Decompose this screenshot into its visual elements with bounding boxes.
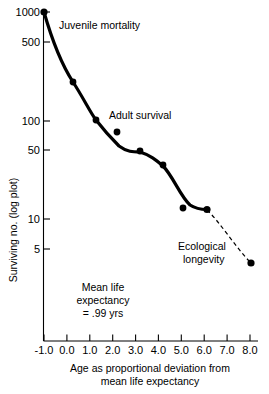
y-axis-tick-labels: 1000 500 100 50 10 5	[16, 6, 40, 255]
x-tick-label: 4.0	[151, 344, 166, 356]
x-axis-title-line1: Age as proportional deviation from	[70, 362, 230, 374]
survivorship-curve-chart: 1000 500 100 50 10 5 -1.0 0.0 1.0 2.0	[0, 0, 269, 394]
note-mean-life-line1: Mean life	[82, 281, 125, 293]
data-point	[160, 162, 167, 169]
x-tick-label: 1.0	[82, 344, 97, 356]
data-point	[40, 8, 47, 15]
y-tick-label: 500	[22, 36, 40, 48]
y-axis-ticks	[44, 12, 51, 249]
annotation-juvenile-mortality: Juvenile mortality	[59, 19, 141, 31]
x-tick-label: 0.0	[59, 344, 74, 356]
data-point	[203, 206, 210, 213]
note-mean-life-line2: expectancy	[76, 294, 130, 306]
x-tick-label: -1.0	[35, 344, 54, 356]
x-tick-label: 2.0	[105, 344, 120, 356]
y-tick-label: 5	[34, 243, 40, 255]
data-point	[70, 79, 77, 86]
annotation-ecological-line1: Ecological	[178, 240, 226, 252]
x-tick-label: 3.0	[128, 344, 143, 356]
data-point	[137, 148, 144, 155]
annotation-ecological-line2: longevity	[183, 253, 225, 265]
x-tick-label: 6.0	[197, 344, 212, 356]
x-tick-label: 7.0	[219, 344, 234, 356]
x-tick-label: 5.0	[174, 344, 189, 356]
y-tick-label: 100	[22, 115, 40, 127]
annotation-adult-survival: Adult survival	[109, 109, 171, 121]
y-tick-label: 10	[28, 213, 40, 225]
x-axis-ticks	[44, 335, 250, 342]
note-mean-life-line3: = .99 yrs	[83, 307, 124, 319]
data-point	[247, 259, 254, 266]
x-tick-label: 8.0	[242, 344, 257, 356]
data-point	[93, 117, 100, 124]
y-tick-label: 50	[28, 144, 40, 156]
x-axis-tick-labels: -1.0 0.0 1.0 2.0 3.0 4.0 5.0 6.0 7.0 8.0	[35, 344, 258, 356]
data-point	[114, 129, 121, 136]
data-point	[180, 205, 187, 212]
x-axis-title-line2: mean life expectancy	[101, 375, 200, 387]
y-axis-title: Surviving no. (log plot)	[7, 178, 19, 282]
chart-figure: 1000 500 100 50 10 5 -1.0 0.0 1.0 2.0	[0, 0, 269, 394]
y-tick-label: 1000	[16, 6, 40, 18]
